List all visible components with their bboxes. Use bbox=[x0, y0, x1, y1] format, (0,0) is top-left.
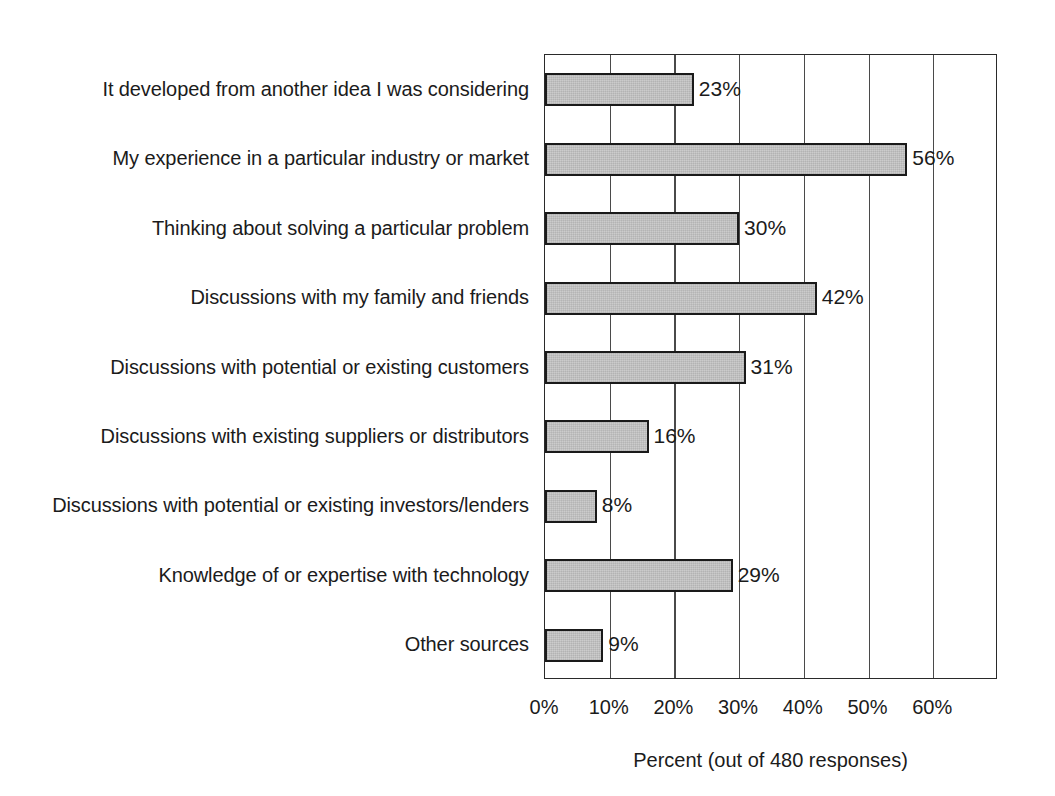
category-label: Thinking about solving a particular prob… bbox=[152, 217, 529, 239]
x-tick-label: 40% bbox=[783, 695, 823, 719]
bar bbox=[545, 282, 817, 315]
category-label-row: Discussions with potential or existing c… bbox=[0, 353, 529, 381]
category-label: Knowledge of or expertise with technolog… bbox=[158, 564, 529, 586]
category-label-row: My experience in a particular industry o… bbox=[0, 144, 529, 172]
x-axis-tick-labels: 0%10%20%30%40%50%60% bbox=[544, 695, 997, 723]
category-label-row: Knowledge of or expertise with technolog… bbox=[0, 561, 529, 589]
category-label-row: Discussions with existing suppliers or d… bbox=[0, 422, 529, 450]
bar bbox=[545, 73, 694, 106]
plot-area bbox=[544, 54, 997, 679]
category-label: My experience in a particular industry o… bbox=[113, 147, 529, 169]
gridline bbox=[933, 55, 934, 678]
x-tick-label: 0% bbox=[530, 695, 559, 719]
category-label: It developed from another idea I was con… bbox=[102, 78, 529, 100]
bar bbox=[545, 420, 649, 453]
category-label: Discussions with potential or existing c… bbox=[110, 356, 529, 378]
x-tick-label: 10% bbox=[589, 695, 629, 719]
x-tick-label: 30% bbox=[718, 695, 758, 719]
category-label-row: It developed from another idea I was con… bbox=[0, 75, 529, 103]
bar bbox=[545, 143, 907, 176]
bar bbox=[545, 351, 746, 384]
category-label: Discussions with existing suppliers or d… bbox=[101, 425, 529, 447]
bar bbox=[545, 629, 603, 662]
category-label-row: Thinking about solving a particular prob… bbox=[0, 214, 529, 242]
category-axis-labels: It developed from another idea I was con… bbox=[0, 54, 529, 679]
bar bbox=[545, 490, 597, 523]
bar-chart: It developed from another idea I was con… bbox=[0, 0, 1055, 796]
x-tick-label: 20% bbox=[653, 695, 693, 719]
x-tick-label: 50% bbox=[847, 695, 887, 719]
x-tick-label: 60% bbox=[912, 695, 952, 719]
bar bbox=[545, 559, 733, 592]
category-label: Discussions with potential or existing i… bbox=[52, 494, 529, 516]
bar bbox=[545, 212, 739, 245]
category-label-row: Discussions with potential or existing i… bbox=[0, 491, 529, 519]
category-label-row: Other sources bbox=[0, 630, 529, 658]
category-label: Other sources bbox=[405, 633, 529, 655]
category-label: Discussions with my family and friends bbox=[190, 286, 529, 308]
x-axis-title: Percent (out of 480 responses) bbox=[544, 748, 997, 772]
category-label-row: Discussions with my family and friends bbox=[0, 283, 529, 311]
